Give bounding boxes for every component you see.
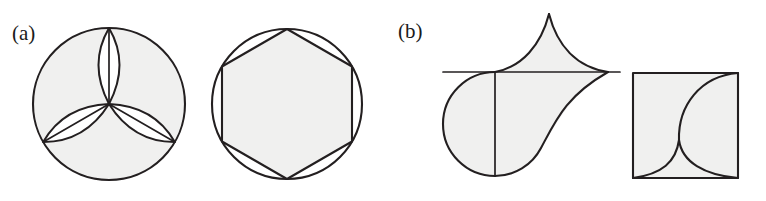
- teardrop-body-fill: [443, 72, 608, 176]
- shape-square-with-arcs: [633, 73, 738, 178]
- panel-b-label: (b): [398, 19, 423, 43]
- square-fill: [633, 73, 738, 178]
- figure-container: (a): [0, 0, 766, 201]
- panel-a: (a): [12, 21, 362, 180]
- shape-circle-with-three-petals: [33, 28, 185, 180]
- shape-teardrop-cusp: [443, 14, 620, 176]
- panel-a-label: (a): [12, 21, 35, 45]
- geometry-figure-svg: (a): [0, 0, 766, 201]
- shape-circle-with-inscribed-hexagon: [212, 29, 362, 179]
- panel-b: (b): [398, 14, 738, 178]
